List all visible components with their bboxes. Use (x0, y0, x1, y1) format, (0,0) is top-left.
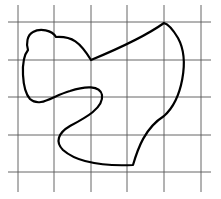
closed-curve-shape (23, 23, 184, 165)
grid-figure (0, 0, 221, 199)
